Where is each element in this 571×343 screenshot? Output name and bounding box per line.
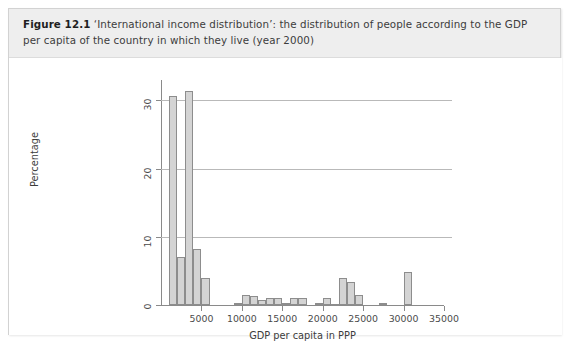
histogram-bar bbox=[355, 295, 363, 305]
histogram-bar bbox=[282, 303, 290, 305]
x-axis-title: GDP per capita in PPP bbox=[161, 330, 444, 341]
histogram-bar bbox=[379, 303, 387, 305]
histogram-bar bbox=[193, 249, 201, 305]
histogram-bar bbox=[266, 298, 274, 305]
histogram-bar bbox=[185, 91, 193, 305]
histogram-bar bbox=[315, 303, 323, 305]
figure-caption-band: Figure 12.1 ‘International income distri… bbox=[9, 9, 560, 58]
chart-plot-area: 0102030 50001000015000200002500030000350… bbox=[9, 58, 562, 335]
histogram-bar bbox=[323, 298, 331, 305]
figure-container: Figure 12.1 ‘International income distri… bbox=[8, 8, 561, 335]
histogram-bar bbox=[290, 298, 298, 306]
histogram-bars bbox=[9, 58, 562, 335]
histogram-bar bbox=[258, 300, 266, 305]
histogram-bar bbox=[250, 296, 258, 305]
figure-caption-body: ‘International income distribution’: the… bbox=[23, 18, 527, 46]
histogram-bar bbox=[339, 278, 347, 305]
histogram-bar bbox=[298, 298, 306, 305]
histogram-bar bbox=[274, 298, 282, 305]
histogram-bar bbox=[234, 303, 242, 305]
figure-caption: Figure 12.1 ‘International income distri… bbox=[23, 17, 546, 48]
histogram-bar bbox=[201, 278, 209, 305]
y-axis-title: Percentage bbox=[29, 115, 40, 205]
histogram-bar bbox=[331, 304, 339, 306]
histogram-bar bbox=[169, 96, 177, 305]
histogram-bar bbox=[242, 295, 250, 305]
histogram-bar bbox=[404, 272, 412, 305]
histogram-bar bbox=[347, 282, 355, 305]
histogram-bar bbox=[177, 257, 185, 305]
figure-number: Figure 12.1 bbox=[23, 18, 90, 30]
